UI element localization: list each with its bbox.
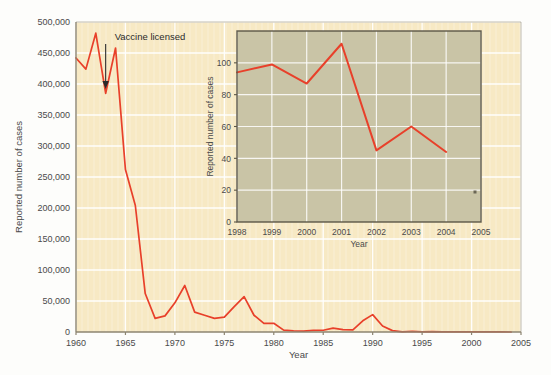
main-xtick-label: 1985: [313, 338, 333, 348]
main-ytick-label: 50,000: [42, 296, 70, 306]
chart-svg: 050,000100,000150,000200,000250,000300,0…: [0, 0, 551, 375]
main-ytick-label: 200,000: [37, 203, 70, 213]
inset-ytick-label: 20: [222, 185, 232, 195]
main-ytick-label: 150,000: [37, 234, 70, 244]
inset-xtick-label: 2005: [472, 227, 491, 237]
inset-xtick-label: 2004: [437, 227, 456, 237]
main-ytick-label: 300,000: [37, 141, 70, 151]
inset-ytick-label: 0: [226, 217, 231, 227]
inset-scan-mark: [474, 191, 477, 194]
inset-y-axis-title: Reported number of cases: [205, 76, 215, 176]
main-xtick-label: 1960: [66, 338, 86, 348]
main-x-axis-title: Year: [289, 349, 308, 360]
main-xtick-label: 1970: [165, 338, 185, 348]
inset-ytick-label: 60: [222, 122, 232, 132]
inset-xtick-label: 2002: [367, 227, 386, 237]
inset-x-axis-title: Year: [350, 239, 367, 249]
main-xtick-label: 2000: [462, 338, 482, 348]
main-xtick-label: 1980: [264, 338, 284, 348]
main-xtick-label: 1995: [412, 338, 432, 348]
inset-ytick-label: 40: [222, 154, 232, 164]
main-ytick-label: 400,000: [37, 79, 70, 89]
main-ytick-label: 450,000: [37, 48, 70, 58]
inset-xtick-label: 2003: [402, 227, 421, 237]
inset-xtick-label: 1998: [228, 227, 247, 237]
main-ytick-label: 100,000: [37, 265, 70, 275]
inset-xtick-label: 1999: [262, 227, 281, 237]
inset-xtick-label: 2000: [297, 227, 316, 237]
vaccine-annotation-label: Vaccine licensed: [115, 31, 186, 42]
main-ytick-label: 250,000: [37, 172, 70, 182]
inset-ytick-label: 100: [217, 58, 231, 68]
main-xtick-label: 2005: [511, 338, 531, 348]
inset-xtick-label: 2001: [332, 227, 351, 237]
main-xtick-label: 1975: [214, 338, 234, 348]
main-ytick-label: 350,000: [37, 110, 70, 120]
figure-container: 050,000100,000150,000200,000250,000300,0…: [0, 0, 551, 375]
inset-ytick-label: 80: [222, 90, 232, 100]
main-y-axis-title: Reported number of cases: [13, 121, 24, 233]
main-ytick-label: 500,000: [37, 17, 70, 27]
main-ytick-label: 0: [65, 327, 70, 337]
main-xtick-label: 1990: [363, 338, 383, 348]
main-xtick-label: 1965: [115, 338, 135, 348]
